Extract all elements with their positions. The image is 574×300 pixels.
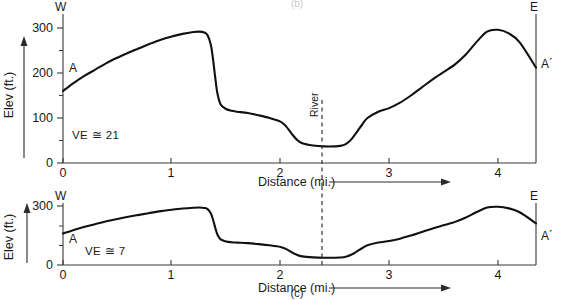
- right-axis-bottom-label-e: E: [530, 189, 538, 203]
- y-tick-label-top-300: 300: [32, 21, 53, 35]
- elevation-profile-curve-bottom: [63, 207, 536, 258]
- profile-start-label-top-a: A: [69, 61, 77, 75]
- figure-canvas: (b) Elev (ft.) W 0 100: [0, 0, 574, 300]
- x-tick-label-bottom-3: 3: [386, 268, 393, 282]
- x-tick-label-top-3: 3: [386, 166, 393, 180]
- x-tick-label-top-4: 4: [495, 166, 502, 180]
- x-tick-label-bottom-2: 2: [277, 268, 284, 282]
- profile-end-label-bottom-aprime: A´: [541, 229, 553, 243]
- x-axis-title-top: Distance (mi.): [258, 175, 335, 189]
- left-axis-bottom-label-w: W: [55, 189, 67, 203]
- panel-bottom-ve7: Elev (ft.) W 0 300: [2, 186, 553, 299]
- y-tick-label-top-0: 0: [46, 156, 53, 170]
- y-ticks-bottom: 0 300: [32, 199, 63, 272]
- elev-direction-arrow-bottom: [24, 203, 31, 263]
- x-tick-label-top-0: 0: [60, 166, 67, 180]
- panel-label-bottom: (c): [291, 287, 304, 299]
- panel-top-ve21: (b) Elev (ft.) W 0 100: [2, 0, 553, 189]
- distance-direction-arrow-bottom: [329, 285, 451, 292]
- topographic-profile-figure: (b) Elev (ft.) W 0 100: [0, 0, 574, 300]
- y-axis-title-bottom: Elev (ft.): [2, 214, 16, 261]
- panel-label-top: (b): [291, 0, 303, 9]
- y-tick-label-top-100: 100: [32, 111, 53, 125]
- vertical-exaggeration-label-bottom: VE ≅ 7: [85, 245, 126, 257]
- x-tick-label-bottom-4: 4: [495, 268, 502, 282]
- elevation-profile-curve-top: [63, 30, 536, 147]
- left-axis-top-label-w: W: [55, 0, 67, 14]
- x-ticks-bottom: 0 1 2 3 4: [60, 260, 502, 282]
- y-axis-title-top: Elev (ft.): [2, 72, 16, 119]
- y-ticks-top: 0 100 200 300: [32, 21, 63, 170]
- y-tick-label-bottom-0: 0: [46, 258, 53, 272]
- profile-start-label-bottom-a: A: [69, 232, 77, 246]
- x-tick-label-bottom-1: 1: [168, 268, 175, 282]
- profile-end-label-top-aprime: A´: [541, 57, 553, 71]
- river-label-top: River: [308, 92, 320, 117]
- vertical-exaggeration-label-top: VE ≅ 21: [72, 129, 119, 141]
- x-tick-label-bottom-0: 0: [60, 268, 67, 282]
- y-tick-label-bottom-300: 300: [32, 199, 53, 213]
- x-tick-label-top-1: 1: [168, 166, 175, 180]
- elev-direction-arrow-top: [21, 36, 28, 158]
- y-tick-label-top-200: 200: [32, 66, 53, 80]
- right-axis-top-label-e: E: [530, 0, 538, 14]
